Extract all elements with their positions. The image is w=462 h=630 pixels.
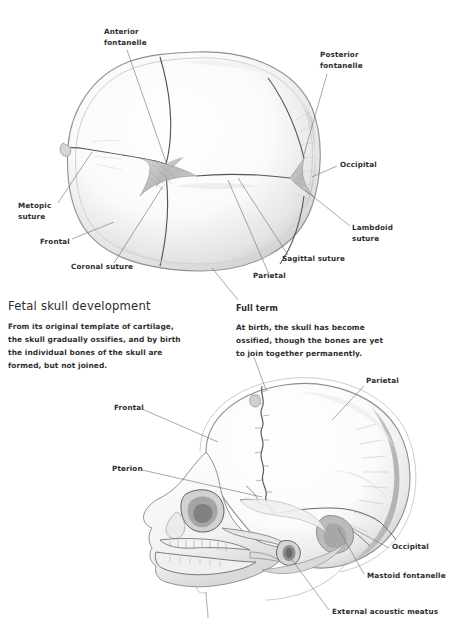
section-body-line-3: the individual bones of the skull are (8, 346, 162, 359)
section-body-line-2: the skull gradually ossifies, and by bir… (8, 333, 181, 346)
full-term-body-line-2: ossified, though the bones are yet (236, 334, 383, 347)
label-occipital-lateral: Occipital (392, 542, 429, 553)
section-heading-fetal-skull-development: Fetal skull development (8, 299, 151, 313)
label-frontal-top: Frontal (40, 237, 70, 248)
section-body-line-4: formed, but not joined. (8, 359, 107, 372)
full-term-body-line-3: to join together permanently. (236, 347, 362, 360)
figure-canvas: Anterior fontanelle Posterior fontanelle… (0, 0, 462, 630)
label-anterior-fontanelle: Anterior fontanelle (104, 27, 147, 48)
section-body-line-1: From its original template of cartilage, (8, 320, 174, 333)
lateral-skull-drawing (143, 378, 415, 618)
superior-skull-drawing (60, 52, 320, 271)
label-pterion: Pterion (112, 464, 143, 475)
label-posterior-fontanelle: Posterior fontanelle (320, 50, 363, 71)
label-parietal-top: Parietal (253, 271, 286, 282)
label-metopic-suture: Metopic suture (18, 201, 51, 222)
section-heading-full-term: Full term (236, 303, 278, 314)
label-frontal-lateral: Frontal (114, 403, 144, 414)
label-lambdoid-suture: Lambdoid suture (352, 223, 393, 244)
full-term-body-line-1: At birth, the skull has become (236, 321, 365, 334)
label-sagittal-suture: Sagittal suture (282, 254, 345, 265)
label-mastoid-fontanelle: Mastoid fontanelle (367, 571, 446, 582)
label-parietal-lateral: Parietal (366, 376, 399, 387)
skull-illustrations (0, 0, 462, 630)
label-occipital-top: Occipital (340, 160, 377, 171)
label-external-acoustic-meatus: External acoustic meatus (332, 607, 438, 618)
label-coronal-suture: Coronal suture (71, 262, 133, 273)
